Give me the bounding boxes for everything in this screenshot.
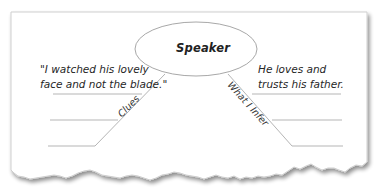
clue-quote-line-2: face and not the blade."	[40, 77, 167, 92]
speaker-label: Speaker	[176, 43, 230, 55]
inference-line-2: trusts his father.	[258, 77, 344, 92]
inference-text: He loves and trusts his father.	[258, 62, 344, 92]
clue-quote-line-1: "I watched his lovely	[40, 62, 167, 77]
torn-paper-sheet	[0, 0, 380, 188]
inference-line-1: He loves and	[258, 62, 344, 77]
clue-quote-text: "I watched his lovely face and not the b…	[40, 62, 167, 92]
inference-diagram: Speaker "I watched his lovely face and n…	[0, 0, 380, 188]
